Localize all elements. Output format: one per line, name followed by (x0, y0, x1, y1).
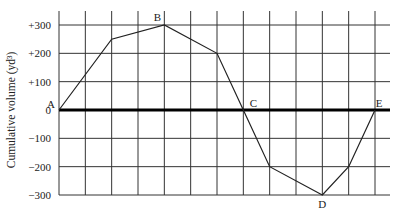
vertical-grid (59, 11, 375, 195)
point-label-d: D (318, 198, 326, 210)
y-tick-label: +300 (28, 19, 51, 31)
point-label-c: C (250, 97, 257, 109)
mass-diagram-chart: +300+200+1000−100−200−300 ABCDE Cumulati… (0, 0, 396, 212)
y-axis-title: Cumulative volume (yd³) (5, 52, 18, 169)
point-label-e: E (376, 97, 383, 109)
y-tick-label: −200 (28, 161, 51, 173)
y-tick-label: +200 (28, 47, 51, 59)
y-tick-labels: +300+200+1000−100−200−300 (28, 19, 51, 201)
y-tick-label: +100 (28, 76, 51, 88)
point-label-b: B (154, 11, 161, 23)
point-label-a: A (47, 98, 55, 110)
y-tick-label: −100 (28, 132, 51, 144)
y-tick-label: −300 (28, 189, 51, 201)
